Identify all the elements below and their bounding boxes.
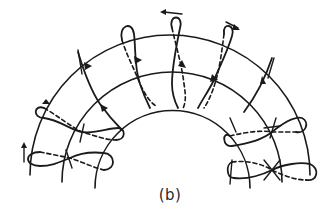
outer-arc	[30, 35, 310, 175]
loop-right-upper	[230, 58, 274, 132]
loop-upper-left	[78, 50, 122, 130]
arrow-left-icon	[160, 9, 166, 15]
inner-arc	[95, 111, 250, 188]
arch-coil-diagram: (b)	[0, 0, 336, 224]
loop-top-center	[160, 9, 186, 110]
loop-top-right	[198, 22, 240, 108]
loop-bottom-left	[21, 142, 113, 170]
arrow-up-icon	[21, 142, 27, 148]
loop-right-bottom	[228, 160, 317, 184]
figure-caption: (b)	[148, 186, 192, 204]
